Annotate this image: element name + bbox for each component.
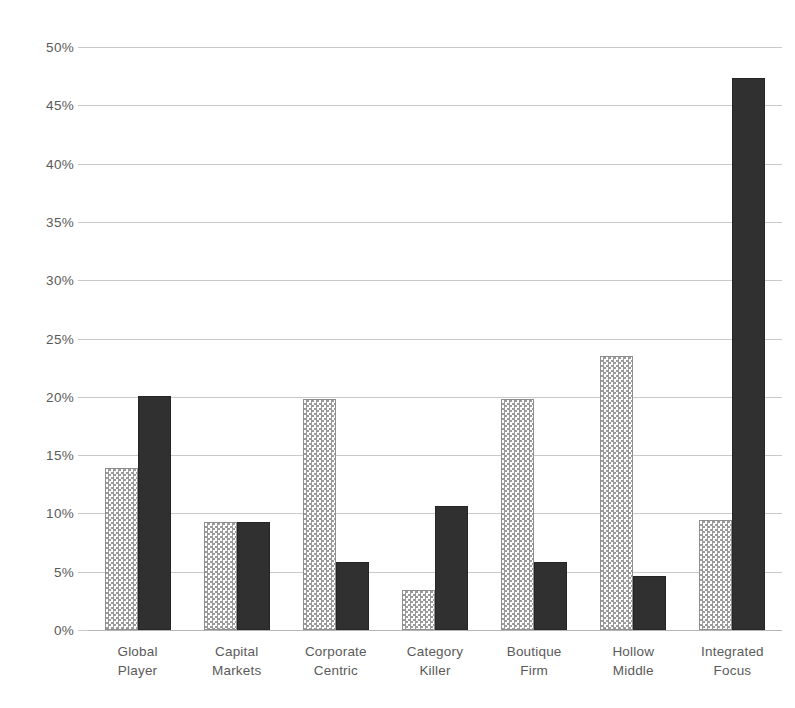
bars: [485, 47, 584, 630]
bar[interactable]: [237, 522, 270, 630]
y-axis-tick: [78, 339, 88, 340]
bar[interactable]: [732, 78, 765, 630]
y-axis-label: 0%: [54, 623, 74, 638]
y-axis-tick: [78, 47, 88, 48]
x-axis-label-line: Player: [88, 661, 187, 680]
x-axis-label: IntegratedFocus: [683, 642, 782, 680]
bar[interactable]: [699, 520, 732, 630]
y-axis-tick: [78, 280, 88, 281]
y-axis-tick: [78, 572, 88, 573]
y-axis-label: 15%: [46, 448, 74, 463]
bar-group: [286, 47, 385, 630]
bar[interactable]: [105, 468, 138, 630]
y-axis-label: 25%: [46, 331, 74, 346]
y-axis-label: 20%: [46, 389, 74, 404]
bar[interactable]: [600, 356, 633, 630]
bars: [88, 47, 187, 630]
x-axis-label-line: Boutique: [507, 644, 562, 659]
bar-group: [385, 47, 484, 630]
bar[interactable]: [435, 506, 468, 630]
y-axis-label: 35%: [46, 214, 74, 229]
plot-area: 0%5%10%15%20%25%30%35%40%45%50%: [88, 47, 782, 630]
y-axis-tick: [78, 105, 88, 106]
bar[interactable]: [336, 562, 369, 630]
x-axis-label: GlobalPlayer: [88, 642, 187, 680]
y-axis-tick: [78, 222, 88, 223]
bar[interactable]: [633, 576, 666, 630]
bars: [187, 47, 286, 630]
y-axis-tick: [78, 455, 88, 456]
x-axis-label-line: Centric: [286, 661, 385, 680]
x-axis-label-line: Corporate: [305, 644, 367, 659]
y-axis-tick: [78, 164, 88, 165]
x-axis-label-line: Category: [407, 644, 463, 659]
y-axis-tick: [78, 513, 88, 514]
x-axis-label-line: Hollow: [612, 644, 654, 659]
bar[interactable]: [402, 590, 435, 630]
x-axis-label-line: Middle: [584, 661, 683, 680]
bar[interactable]: [204, 522, 237, 630]
x-axis-label-line: Markets: [187, 661, 286, 680]
x-axis-labels: GlobalPlayerCapitalMarketsCorporateCentr…: [88, 642, 782, 680]
x-axis-label-line: Focus: [683, 661, 782, 680]
x-axis-label: BoutiqueFirm: [485, 642, 584, 680]
x-axis-label: HollowMiddle: [584, 642, 683, 680]
bars: [385, 47, 484, 630]
bar-group: [683, 47, 782, 630]
y-axis-tick: [78, 630, 88, 631]
bar[interactable]: [303, 399, 336, 630]
y-axis-label: 10%: [46, 506, 74, 521]
bar-group: [584, 47, 683, 630]
bar-group: [88, 47, 187, 630]
bar[interactable]: [138, 396, 171, 630]
y-axis-label: 30%: [46, 273, 74, 288]
x-axis-label: CategoryKiller: [385, 642, 484, 680]
bars: [683, 47, 782, 630]
y-axis-label: 40%: [46, 156, 74, 171]
y-axis-label: 45%: [46, 98, 74, 113]
y-axis-tick: [78, 397, 88, 398]
y-axis-label: 50%: [46, 40, 74, 55]
x-axis-label: CapitalMarkets: [187, 642, 286, 680]
x-axis-label-line: Killer: [385, 661, 484, 680]
bar[interactable]: [501, 399, 534, 630]
x-axis-label-line: Firm: [485, 661, 584, 680]
bar-group: [485, 47, 584, 630]
x-axis-label-line: Global: [117, 644, 157, 659]
gridline: [88, 630, 782, 631]
x-axis-label-line: Integrated: [701, 644, 764, 659]
x-axis-label-line: Capital: [215, 644, 258, 659]
bars: [584, 47, 683, 630]
bar-chart: 0%5%10%15%20%25%30%35%40%45%50% GlobalPl…: [0, 0, 795, 708]
x-axis-label: CorporateCentric: [286, 642, 385, 680]
bar-group: [187, 47, 286, 630]
bar[interactable]: [534, 562, 567, 630]
bars: [286, 47, 385, 630]
bar-groups: [88, 47, 782, 630]
y-axis-label: 5%: [54, 564, 74, 579]
